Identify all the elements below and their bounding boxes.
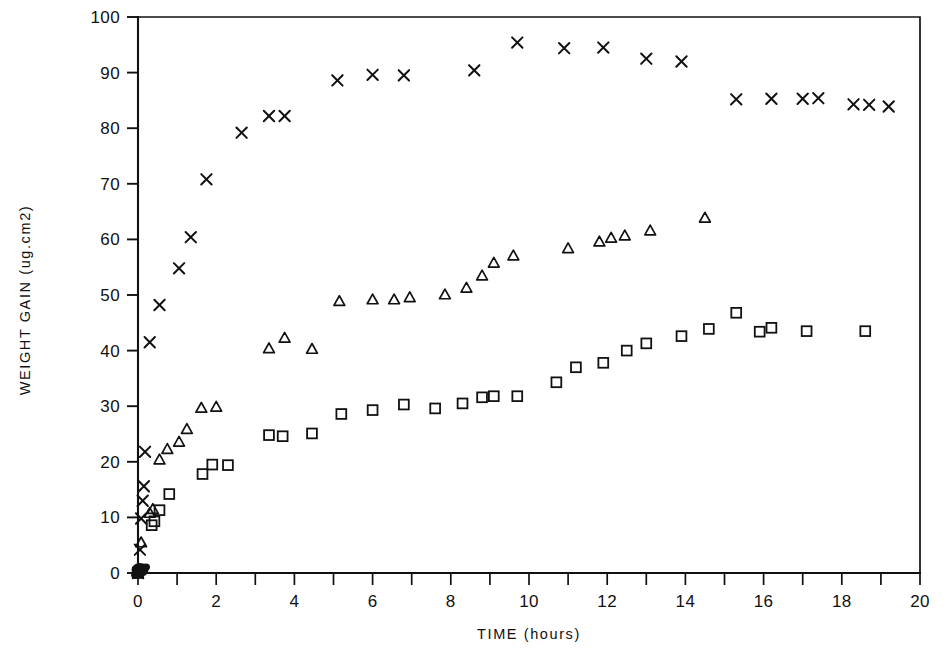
data-point — [278, 431, 288, 441]
data-point — [802, 326, 812, 336]
data-point — [164, 489, 174, 499]
data-point — [264, 111, 274, 121]
plot-frame — [138, 17, 920, 573]
chart-figure: 0102030405060708090100 WEIGHT GAIN (ug.c… — [0, 0, 948, 667]
data-point — [367, 70, 377, 80]
x-axis: 02468101214161820 TIME (hours) — [133, 573, 930, 642]
data-point — [598, 42, 608, 52]
y-tick-label: 30 — [100, 397, 120, 416]
data-point — [279, 332, 290, 342]
data-point — [201, 174, 211, 184]
data-point — [336, 409, 346, 419]
data-point — [174, 263, 184, 273]
data-point — [458, 399, 468, 409]
y-tick-label: 100 — [90, 8, 120, 27]
x-axis-tick-labels: 02468101214161820 — [133, 592, 930, 611]
x-tick-label: 14 — [676, 592, 696, 611]
data-point — [154, 300, 164, 310]
data-point — [186, 232, 196, 242]
data-point — [767, 323, 777, 333]
data-point — [211, 401, 222, 411]
x-axis-ticks — [138, 573, 920, 585]
data-point — [676, 56, 686, 66]
data-point — [461, 282, 472, 292]
y-tick-label: 70 — [100, 175, 120, 194]
data-point — [813, 93, 823, 103]
y-axis-title: WEIGHT GAIN (ug.cm2) — [17, 205, 33, 395]
data-point — [508, 250, 519, 260]
y-tick-label: 0 — [110, 564, 120, 583]
data-point — [154, 454, 165, 464]
x-tick-label: 2 — [211, 592, 221, 611]
data-point — [798, 94, 808, 104]
data-point — [860, 326, 870, 336]
data-point — [512, 391, 522, 401]
data-point — [139, 481, 149, 491]
origin-cluster-blob — [131, 563, 150, 579]
data-point — [223, 460, 233, 470]
data-point — [677, 331, 687, 341]
data-point — [196, 402, 207, 412]
x-tick-label: 16 — [754, 592, 774, 611]
data-point — [147, 520, 157, 530]
y-axis-ticks — [127, 17, 138, 573]
y-axis: 0102030405060708090100 WEIGHT GAIN (ug.c… — [17, 8, 138, 583]
data-series-layer — [133, 37, 894, 578]
x-tick-label: 10 — [519, 592, 539, 611]
data-point — [368, 405, 378, 415]
y-axis-tick-labels: 0102030405060708090100 — [90, 8, 120, 583]
data-point — [367, 294, 378, 304]
data-point — [137, 496, 147, 506]
data-point — [700, 212, 711, 222]
x-tick-label: 6 — [368, 592, 378, 611]
data-point — [389, 294, 400, 304]
data-point — [198, 469, 208, 479]
data-point — [551, 377, 561, 387]
frame-top-right — [138, 17, 920, 573]
data-point — [469, 65, 479, 75]
x-axis-title: TIME (hours) — [477, 626, 581, 642]
data-point — [622, 346, 632, 356]
data-point — [766, 94, 776, 104]
data-point — [332, 75, 342, 85]
x-tick-label: 0 — [133, 592, 143, 611]
data-point — [563, 243, 574, 253]
data-point — [619, 230, 630, 240]
data-point — [512, 37, 522, 47]
data-point — [755, 327, 765, 337]
data-point — [731, 94, 741, 104]
series-triangle — [133, 212, 711, 577]
data-point — [645, 225, 656, 235]
data-point — [430, 404, 440, 414]
data-point — [162, 444, 173, 454]
data-point — [279, 111, 289, 121]
data-point — [181, 424, 192, 434]
x-tick-label: 8 — [446, 592, 456, 611]
data-point — [264, 430, 274, 440]
data-point — [559, 43, 569, 53]
data-point — [334, 296, 345, 306]
data-point — [571, 362, 581, 372]
data-point — [598, 358, 608, 368]
y-tick-label: 80 — [100, 119, 120, 138]
data-point — [404, 292, 415, 302]
data-point — [594, 236, 605, 246]
data-point — [477, 392, 487, 402]
data-point — [264, 343, 275, 353]
data-point — [641, 54, 651, 64]
y-tick-label: 50 — [100, 286, 120, 305]
x-tick-label: 20 — [910, 592, 930, 611]
data-point — [399, 400, 409, 410]
y-tick-label: 40 — [100, 342, 120, 361]
scatter-plot-canvas: 0102030405060708090100 WEIGHT GAIN (ug.c… — [0, 0, 948, 667]
data-point — [236, 127, 246, 137]
data-point — [864, 100, 874, 110]
data-point — [440, 289, 451, 299]
series-cross — [133, 37, 894, 578]
data-point — [848, 99, 858, 109]
y-tick-label: 10 — [100, 508, 120, 527]
y-tick-label: 60 — [100, 230, 120, 249]
data-point — [307, 429, 317, 439]
data-point — [145, 337, 155, 347]
series-square — [133, 308, 870, 578]
